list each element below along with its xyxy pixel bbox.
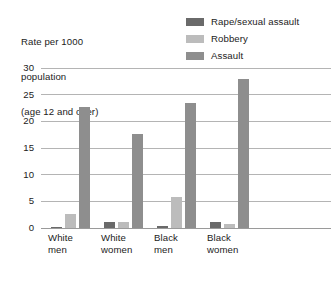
bar <box>104 222 115 228</box>
y-axis-tick-label: 5 <box>29 196 34 206</box>
y-axis-tick-label: 15 <box>23 143 34 153</box>
bar-chart: Rate per 1000 population (age 12 and ove… <box>0 0 334 281</box>
x-axis-tick-label-line: men <box>48 244 73 256</box>
legend-label-assault: Assault <box>211 51 243 61</box>
legend-item-assault: Assault <box>186 48 299 63</box>
x-axis-tick-label-line: White <box>48 232 73 244</box>
y-axis-label-line-1: Rate per 1000 <box>21 36 98 48</box>
bar-group <box>210 68 249 228</box>
bar <box>132 134 143 228</box>
x-axis-tick-label-line: White <box>101 232 132 244</box>
legend-swatch-rape-sexual-assault <box>186 18 204 26</box>
y-axis-tick-label: 25 <box>23 90 34 100</box>
bar <box>185 103 196 228</box>
legend-item-rape-sexual-assault: Rape/sexual assault <box>186 14 299 29</box>
bar <box>157 226 168 228</box>
bar <box>224 224 235 228</box>
y-axis-tick-label: 0 <box>29 223 34 233</box>
y-axis-tick-label: 10 <box>23 170 34 180</box>
x-axis-tick-label: Whitewomen <box>101 232 132 257</box>
x-axis-tick-label-line: Black <box>154 232 178 244</box>
x-axis-tick-label: Blackwomen <box>207 232 238 257</box>
x-axis-tick-label-line: women <box>101 244 132 256</box>
bar-group <box>51 68 90 228</box>
bar <box>171 197 182 228</box>
bar-group <box>157 68 196 228</box>
x-axis-tick-label-line: women <box>207 244 238 256</box>
bar <box>79 107 90 228</box>
bar-group <box>104 68 143 228</box>
x-axis-tick-labels: WhitemenWhitewomenBlackmenBlackwomen <box>41 232 331 272</box>
y-axis-tick-labels: 051015202530 <box>0 68 40 228</box>
y-axis-tick-label: 20 <box>23 116 34 126</box>
legend-item-robbery: Robbery <box>186 31 299 46</box>
x-axis-tick-label: Blackmen <box>154 232 178 257</box>
bar <box>238 79 249 228</box>
bar <box>118 222 129 228</box>
legend-label-rape-sexual-assault: Rape/sexual assault <box>211 17 299 27</box>
y-axis-tick-label: 30 <box>23 63 34 73</box>
x-axis-tick-label: Whitemen <box>48 232 73 257</box>
legend-swatch-assault <box>186 52 204 60</box>
legend-label-robbery: Robbery <box>211 34 248 44</box>
plot-area <box>41 68 331 228</box>
legend-swatch-robbery <box>186 35 204 43</box>
bar <box>210 222 221 228</box>
bar <box>65 214 76 228</box>
bar <box>51 227 62 228</box>
x-axis-tick-label-line: men <box>154 244 178 256</box>
chart-legend: Rape/sexual assault Robbery Assault <box>186 14 299 65</box>
x-axis-tick-label-line: Black <box>207 232 238 244</box>
